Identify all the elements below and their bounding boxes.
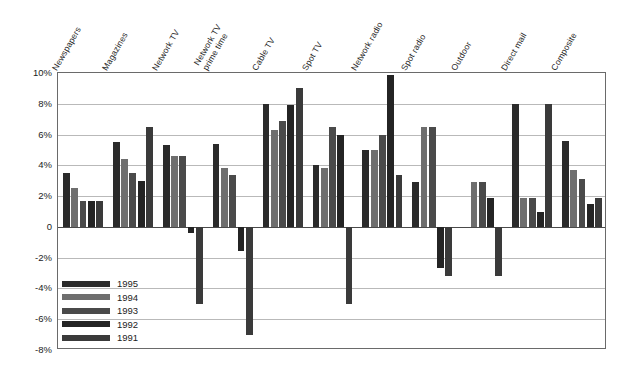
bar-newspapers-1995 xyxy=(63,173,70,227)
category-label-cable-tv: Cable TV xyxy=(250,36,276,72)
bar-composite-1994 xyxy=(570,170,577,227)
y-axis: 10%8%6%4%2%0-2%-4%-6%-8% xyxy=(0,72,57,349)
bar-network-radio-1994 xyxy=(371,150,378,227)
y-axis-tick-label: 10% xyxy=(33,67,52,78)
y-axis-tick-label: 6% xyxy=(38,128,52,139)
bar-cable-tv-1991 xyxy=(296,88,303,227)
bar-network-tv-1994 xyxy=(171,156,178,227)
category-label-composite: Composite xyxy=(550,31,579,72)
y-axis-tick-label: 2% xyxy=(38,190,52,201)
bar-outdoor-1994 xyxy=(471,182,478,227)
bar-composite-1991 xyxy=(595,198,602,227)
bar-outdoor-1993 xyxy=(479,182,486,227)
bar-network-radio-1991 xyxy=(396,175,403,227)
legend-swatch-1993 xyxy=(62,308,110,314)
category-label-newspapers: Newspapers xyxy=(51,25,84,72)
grouped-bar-chart: NewspapersMagazinesNetwork TVNetwork TVp… xyxy=(0,0,617,376)
bar-spot-radio-1995 xyxy=(412,182,419,227)
bar-direct-mail-1995 xyxy=(512,104,519,227)
category-label-spot-tv: Spot TV xyxy=(300,40,324,72)
bar-network-tv-prime-time-1992 xyxy=(238,227,245,252)
bar-spot-radio-1994 xyxy=(421,127,428,227)
y-axis-tick-label: 0 xyxy=(47,220,52,231)
category-label-outdoor: Outdoor xyxy=(450,40,474,72)
category-label-network-tv: Network TV xyxy=(151,28,182,72)
bar-spot-radio-1991 xyxy=(445,227,452,276)
legend-label-1995: 1995 xyxy=(117,278,138,289)
bar-network-tv-1993 xyxy=(179,156,186,227)
category-label-spot-radio: Spot radio xyxy=(400,32,428,72)
bar-spot-radio-1993 xyxy=(429,127,436,227)
bar-network-tv-prime-time-1995 xyxy=(213,144,220,227)
legend-label-1991: 1991 xyxy=(117,332,138,343)
legend-swatch-1994 xyxy=(62,294,110,300)
bar-network-tv-1991 xyxy=(196,227,203,304)
bar-newspapers-1993 xyxy=(80,201,87,227)
legend-swatch-1992 xyxy=(62,321,110,327)
bar-network-tv-prime-time-1994 xyxy=(221,168,228,226)
bar-newspapers-1992 xyxy=(88,201,95,227)
bar-network-radio-1993 xyxy=(379,135,386,227)
bar-spot-tv-1992 xyxy=(337,135,344,227)
bar-spot-tv-1991 xyxy=(346,227,353,304)
bar-network-tv-prime-time-1991 xyxy=(246,227,253,335)
legend: 19951994199319921991 xyxy=(62,277,174,345)
bar-magazines-1991 xyxy=(146,127,153,227)
y-axis-tick-label: -4% xyxy=(35,282,52,293)
category-label-magazines: Magazines xyxy=(101,30,130,72)
bar-direct-mail-1991 xyxy=(545,104,552,227)
bar-composite-1993 xyxy=(579,179,586,227)
legend-item-1992[interactable]: 1992 xyxy=(62,318,174,332)
bar-composite-1995 xyxy=(562,141,569,227)
legend-item-1994[interactable]: 1994 xyxy=(62,291,174,305)
bar-cable-tv-1992 xyxy=(287,105,294,227)
bar-network-radio-1995 xyxy=(362,150,369,227)
bar-newspapers-1991 xyxy=(96,201,103,227)
y-axis-tick-label: 4% xyxy=(38,159,52,170)
bar-spot-radio-1992 xyxy=(437,227,444,269)
category-label-direct-mail: Direct mail xyxy=(500,31,529,72)
bar-network-tv-prime-time-1993 xyxy=(229,175,236,227)
bar-magazines-1994 xyxy=(121,159,128,227)
bar-magazines-1992 xyxy=(138,181,145,227)
bar-magazines-1995 xyxy=(113,142,120,227)
bar-direct-mail-1992 xyxy=(537,212,544,227)
bar-cable-tv-1993 xyxy=(279,121,286,227)
bar-spot-tv-1993 xyxy=(329,127,336,227)
y-axis-tick-label: -6% xyxy=(35,313,52,324)
bar-outdoor-1991 xyxy=(495,227,502,276)
bar-network-tv-1992 xyxy=(188,227,195,233)
y-axis-tick-label: -8% xyxy=(35,344,52,355)
category-axis-labels: NewspapersMagazinesNetwork TVNetwork TVp… xyxy=(0,0,617,72)
bar-newspapers-1994 xyxy=(71,188,78,226)
bar-composite-1992 xyxy=(587,204,594,227)
category-label-network-tv-prime-time: Network TVprime time xyxy=(192,23,231,72)
legend-item-1993[interactable]: 1993 xyxy=(62,304,174,318)
bar-spot-tv-1995 xyxy=(313,165,320,227)
bar-network-radio-1992 xyxy=(387,75,394,227)
legend-label-1992: 1992 xyxy=(117,319,138,330)
legend-swatch-1995 xyxy=(62,281,110,287)
legend-item-1995[interactable]: 1995 xyxy=(62,277,174,291)
legend-label-1993: 1993 xyxy=(117,305,138,316)
bar-spot-tv-1994 xyxy=(321,168,328,226)
legend-swatch-1991 xyxy=(62,335,110,341)
bar-cable-tv-1995 xyxy=(263,104,270,227)
bar-direct-mail-1993 xyxy=(529,198,536,227)
category-label-network-radio: Network radio xyxy=(350,20,385,72)
legend-item-1991[interactable]: 1991 xyxy=(62,331,174,345)
y-axis-tick-label: -2% xyxy=(35,251,52,262)
legend-label-1994: 1994 xyxy=(117,292,138,303)
bar-direct-mail-1994 xyxy=(520,198,527,227)
bar-network-tv-1995 xyxy=(163,145,170,227)
y-axis-tick-label: 8% xyxy=(38,97,52,108)
bar-outdoor-1992 xyxy=(487,198,494,227)
bar-cable-tv-1994 xyxy=(271,130,278,227)
bar-magazines-1993 xyxy=(129,173,136,227)
